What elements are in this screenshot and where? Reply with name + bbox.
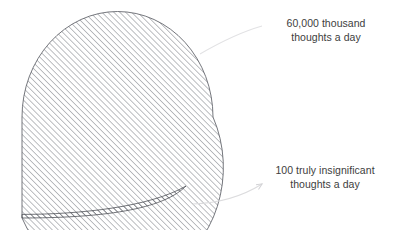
annotation-major: 60,000 thousand thoughts a day <box>262 16 390 44</box>
hatched-thought-volume-shape <box>22 12 223 231</box>
annotation-minor-line-1: 100 truly insignificant <box>258 163 392 177</box>
annotation-major-line-1: 60,000 thousand <box>262 16 390 30</box>
annotation-major-line-2: thoughts a day <box>262 30 390 44</box>
leader-line-major <box>200 26 262 54</box>
major-thoughts-region <box>22 12 223 231</box>
annotation-minor-line-2: thoughts a day <box>258 177 392 191</box>
infographic-canvas: 60,000 thousand thoughts a day 100 truly… <box>0 0 395 230</box>
annotation-minor: 100 truly insignificant thoughts a day <box>258 163 392 191</box>
